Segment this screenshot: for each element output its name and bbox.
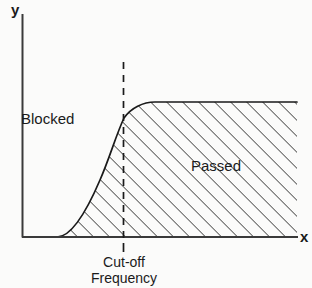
axis-label-y: y xyxy=(11,2,19,17)
axis-label-x: x xyxy=(300,229,308,244)
filter-response-figure xyxy=(0,0,312,288)
cutoff-caption-line-2: Frequency xyxy=(0,270,248,286)
region-label-passed: Passed xyxy=(191,158,241,173)
cutoff-caption-line-1: Cut-off xyxy=(0,254,248,270)
cutoff-frequency-caption: Cut-off Frequency xyxy=(0,254,248,286)
region-label-blocked: Blocked xyxy=(21,111,74,126)
